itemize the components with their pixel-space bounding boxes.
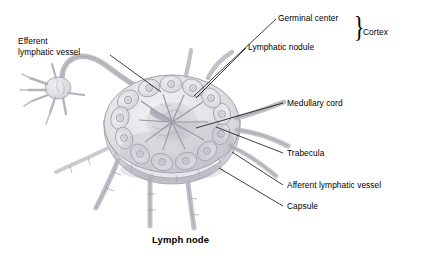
label-lymphatic-nodule: Lymphatic nodule bbox=[248, 42, 314, 53]
label-efferent-lymphatic-vessel: Efferent lymphatic vessel bbox=[18, 36, 80, 57]
figure-caption: Lymph node bbox=[152, 234, 209, 245]
label-germinal-center: Germinal center bbox=[278, 13, 338, 24]
lymph-node-figure: Germinal center Lymphatic nodule } Corte… bbox=[0, 0, 424, 259]
label-cortex: Cortex bbox=[363, 27, 388, 38]
label-medullary-cord: Medullary cord bbox=[287, 98, 343, 109]
label-capsule: Capsule bbox=[287, 201, 318, 212]
label-afferent-lymphatic-vessel: Afferent lymphatic vessel bbox=[287, 180, 381, 191]
label-trabecula: Trabecula bbox=[287, 148, 324, 159]
